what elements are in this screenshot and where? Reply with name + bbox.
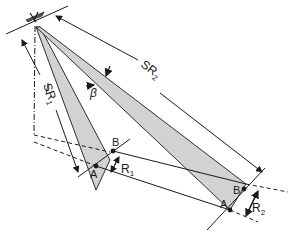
far-dash-1	[246, 184, 288, 192]
beta-label: β	[89, 86, 97, 100]
nadir-line	[34, 26, 35, 135]
label-b-far: B	[233, 184, 240, 196]
r2-label: R2	[252, 201, 266, 217]
label-a-far: A	[220, 198, 228, 210]
r1-arrow-back	[111, 161, 117, 172]
near-beam	[36, 27, 110, 190]
r1-label: R1	[121, 162, 135, 178]
point-a-far	[228, 208, 233, 213]
aircraft-icon	[26, 12, 44, 22]
point-b-far	[242, 187, 247, 192]
sr2-label: SR2	[137, 57, 164, 83]
sr1-arrow-up	[22, 40, 40, 75]
beta-tick-1	[106, 66, 110, 76]
point-b-near	[111, 149, 116, 154]
far-beam	[36, 27, 246, 210]
label-a-near: A	[90, 168, 98, 180]
label-b-near: B	[112, 136, 119, 148]
radar-geometry-diagram: SR1 SR2 β A B R1 A B R2	[0, 0, 292, 239]
